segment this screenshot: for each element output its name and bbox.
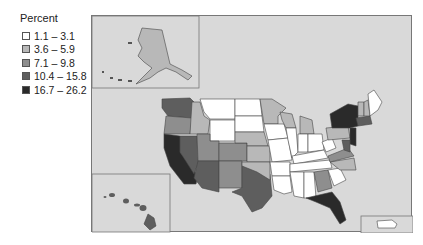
legend-item: 10.4 – 15.8 — [22, 70, 87, 84]
legend-item: 1.1 – 3.1 — [22, 29, 87, 43]
legend-swatch — [22, 72, 30, 80]
legend-swatch — [22, 32, 30, 40]
legend-item: 3.6 – 5.9 — [22, 43, 87, 57]
map-frame — [91, 15, 412, 232]
hawaii-inset — [92, 174, 170, 232]
legend-item: 7.1 – 9.8 — [22, 56, 87, 70]
legend-swatch — [22, 59, 30, 67]
map-legend: Percent 1.1 – 3.1 3.6 – 5.9 7.1 – 9.8 10… — [6, 12, 87, 97]
puerto-rico-inset — [361, 216, 413, 233]
legend-item: 16.7 – 26.2 — [22, 83, 87, 97]
us-choropleth-map — [92, 16, 413, 233]
contiguous-states — [162, 90, 382, 224]
legend-title: Percent — [20, 12, 87, 24]
legend-swatch — [22, 45, 30, 53]
alaska-inset — [92, 16, 199, 88]
legend-swatch — [22, 86, 30, 94]
